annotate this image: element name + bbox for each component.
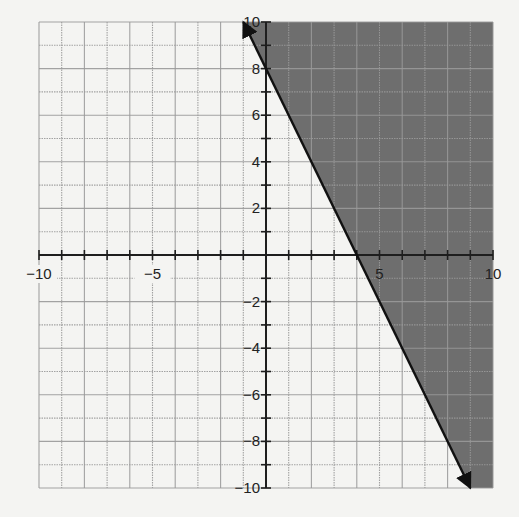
x-tick-label: −5 xyxy=(144,265,161,282)
y-tick-label: −10 xyxy=(235,479,260,496)
x-tick-label: −10 xyxy=(26,265,51,282)
y-tick-label: 6 xyxy=(252,106,260,123)
x-tick-label: 10 xyxy=(485,265,502,282)
inequality-graph: −10−5510108642−2−4−6−8−10 xyxy=(0,0,519,517)
y-tick-label: 8 xyxy=(252,60,260,77)
x-tick-label: 5 xyxy=(375,265,383,282)
y-tick-label: −4 xyxy=(243,339,260,356)
y-tick-label: −2 xyxy=(243,293,260,310)
y-tick-label: −6 xyxy=(243,386,260,403)
y-tick-label: −8 xyxy=(243,432,260,449)
y-tick-label: 4 xyxy=(252,153,260,170)
y-tick-label: 2 xyxy=(252,199,260,216)
